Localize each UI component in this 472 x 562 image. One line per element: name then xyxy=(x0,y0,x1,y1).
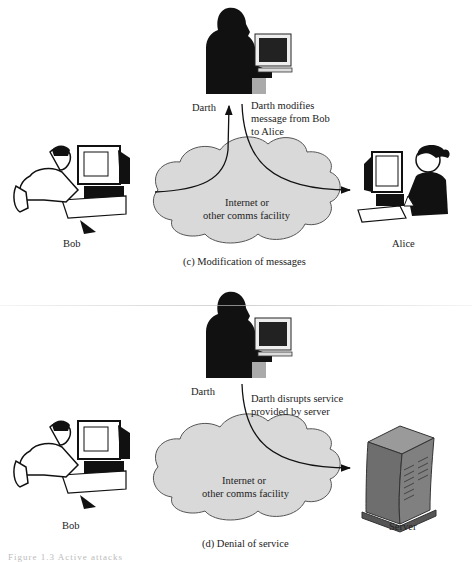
action-text-d-line2: provided by server xyxy=(251,406,330,418)
bob-figure-c xyxy=(14,146,130,235)
network-cloud-d xyxy=(153,414,340,520)
darth-silhouette-c xyxy=(206,8,292,94)
receiver-label-d: Server xyxy=(389,521,416,533)
server-icon xyxy=(362,426,436,532)
network-text-d-line1: Internet or xyxy=(222,475,266,487)
bob-figure-d xyxy=(14,421,130,510)
panel-caption-d: (d) Denial of service xyxy=(202,538,289,550)
page-fold-line xyxy=(0,305,472,306)
network-text-c-line2: other comms facility xyxy=(203,210,290,222)
network-text-d-line2: other comms facility xyxy=(202,488,289,500)
sender-label-d: Bob xyxy=(62,520,80,532)
action-text-c-line3: to Alice xyxy=(251,126,284,138)
attacker-label-d: Darth xyxy=(191,386,215,398)
sender-label-c: Bob xyxy=(63,238,81,250)
receiver-label-c: Alice xyxy=(392,238,415,250)
panel-caption-c: (c) Modification of messages xyxy=(183,256,306,268)
network-text-c-line1: Internet or xyxy=(225,197,269,209)
action-text-d-line1: Darth disrupts service xyxy=(251,393,343,405)
action-text-c-line1: Darth modifies xyxy=(251,100,314,112)
attacker-label-c: Darth xyxy=(192,102,216,114)
figure-caption: Figure 1.3 Active attacks xyxy=(8,552,123,562)
alice-figure-c xyxy=(358,145,450,222)
action-text-c-line2: message from Bob xyxy=(251,113,330,125)
